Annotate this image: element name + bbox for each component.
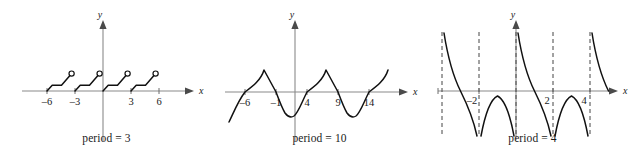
tick-label-pos4: 4 [304,97,310,108]
x-axis-label: x [412,86,418,97]
panel-period-3: y x –6 –3 3 6 [0,0,213,162]
y-axis-arrow-icon [512,20,519,29]
cotangent-branches [444,33,609,136]
x-axis-group [225,88,408,95]
x-axis-arrow-icon [609,87,618,94]
open-circle [97,71,102,76]
y-axis-group [99,20,106,142]
tick-label-neg6: –6 [41,96,53,107]
y-axis-group [291,20,298,142]
y-axis-label: y [97,9,103,20]
panel-caption-period-4: period = 4 [426,132,639,144]
panel-period-10: y x –6 –1 4 9 14 period = 10 [213,0,426,162]
open-circle [125,71,130,76]
panel-caption-period-10: period = 10 [213,132,426,144]
x-axis-label: x [622,85,628,96]
tick-label-pos3: 3 [128,96,133,107]
tick-label-pos6: 6 [156,96,161,107]
y-axis-label: y [289,9,295,20]
tick-label-neg3: –3 [69,96,81,107]
y-axis-arrow-icon [291,20,298,29]
figure-root: y x –6 –3 3 6 [0,0,639,162]
open-circle [69,71,74,76]
x-axis-arrow-icon [185,87,194,94]
open-endpoint-circles [69,71,158,76]
x-axis-arrow-icon [399,88,408,95]
x-axis-label: x [198,85,204,96]
panel-caption-period-3: period = 3 [0,132,213,144]
open-circle [153,71,158,76]
sawtooth-curve [229,70,388,122]
panel-period-4: y x –2 2 4 [426,0,639,162]
y-axis-arrow-icon [99,20,106,29]
y-axis-label: y [510,9,516,20]
x-axis-group [438,87,618,94]
tick-label-pos2: 2 [544,95,549,106]
tick-label-pos4: 4 [581,95,587,106]
step-ramp-curve [47,75,154,91]
